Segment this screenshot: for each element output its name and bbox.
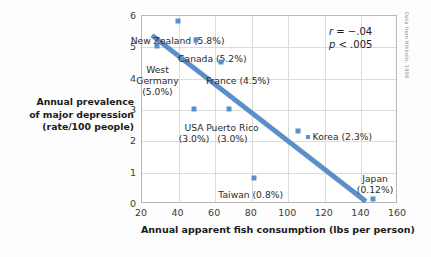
y-axis-title-line-1: Annual prevalence: [6, 96, 134, 109]
data-point-label-line: Germany: [136, 75, 178, 86]
data-point-marker: [371, 197, 376, 202]
x-tick-label: 80: [245, 207, 257, 218]
y-axis-title: Annual prevalence of major depression (r…: [6, 96, 134, 134]
y-tick-label: 0: [119, 198, 136, 209]
y-tick-label: 1: [119, 166, 136, 177]
data-point-label: Taiwan (0.8%): [218, 189, 283, 200]
y-axis-title-line-2: of major depression: [6, 109, 134, 122]
data-point-label-line: Puerto Rico: [206, 122, 258, 133]
data-point-label: New Zealand (5.8%): [131, 35, 225, 46]
gridline-vertical: [288, 16, 289, 202]
data-point-label: Puerto Rico(3.0%): [206, 122, 258, 144]
data-point-label: USA(3.0%): [179, 122, 210, 144]
data-point-label-line: New Zealand (5.8%): [131, 35, 225, 46]
pvalue-statistic: p < .005: [329, 38, 372, 51]
data-point-label: WestGermany(5.0%): [136, 64, 178, 97]
data-point-label-line: (3.0%): [179, 133, 210, 144]
legend-swatch-icon: [306, 135, 310, 139]
gridline-vertical: [325, 16, 326, 202]
y-tick-label: 2: [119, 135, 136, 146]
fish-consumption-depression-chart: New Zealand (5.8%)WestGermany(5.0%)Canad…: [0, 0, 431, 257]
data-point-marker: [175, 19, 180, 24]
gridline-horizontal: [142, 110, 396, 111]
data-point-label-line: (3.0%): [206, 133, 258, 144]
x-tick-label: 20: [135, 207, 147, 218]
data-point-label-line: Japan: [357, 173, 393, 184]
x-tick-label: 100: [278, 207, 296, 218]
data-point-marker: [252, 175, 257, 180]
y-tick-label: 5: [119, 41, 136, 52]
data-point-label: France (4.5%): [206, 75, 270, 86]
p-symbol: p: [329, 39, 335, 50]
data-point-label-line: Taiwan (0.8%): [218, 189, 283, 200]
data-point-label: Korea (2.3%): [306, 131, 372, 142]
gridline-vertical: [252, 16, 253, 202]
x-tick-label: 40: [172, 207, 184, 218]
data-point-label-line: France (4.5%): [206, 75, 270, 86]
data-point-label-line: USA: [179, 122, 210, 133]
data-point-marker: [155, 44, 160, 49]
x-tick-label: 140: [351, 207, 369, 218]
data-point-label-line: (5.0%): [136, 86, 178, 97]
r-value: = −.04: [336, 26, 372, 37]
y-tick-label: 4: [119, 72, 136, 83]
x-tick-label: 160: [388, 207, 406, 218]
data-point-marker: [296, 128, 301, 133]
data-point-marker: [219, 60, 224, 65]
data-point-label-line: Canada (5.2%): [178, 53, 246, 64]
statistics-annotation: r = −.04 p < .005: [329, 25, 372, 51]
correlation-statistic: r = −.04: [329, 25, 372, 38]
x-tick-label: 120: [315, 207, 333, 218]
data-point-marker: [193, 38, 198, 43]
data-point-label: Japan(0.12%): [357, 173, 393, 195]
data-point-label-line: West: [136, 64, 178, 75]
y-tick-label: 6: [119, 10, 136, 21]
x-tick-label: 60: [208, 207, 220, 218]
y-axis-title-line-3: (rate/100 people): [6, 121, 134, 134]
r-symbol: r: [329, 26, 333, 37]
data-point-label: Canada (5.2%): [178, 53, 246, 64]
source-credit: Data from Hibbeln, 1998: [404, 12, 410, 78]
x-axis-title: Annual apparent fish consumption (lbs pe…: [141, 224, 397, 235]
p-value: < .005: [339, 39, 373, 50]
data-point-marker: [192, 107, 197, 112]
data-point-marker: [226, 107, 231, 112]
data-point-label-line: (0.12%): [357, 184, 393, 195]
